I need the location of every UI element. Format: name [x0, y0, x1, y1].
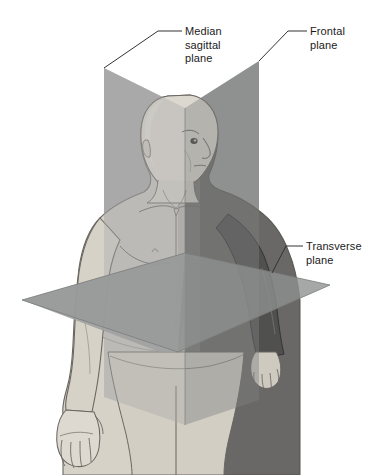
planes-diagram-svg [0, 0, 383, 475]
anatomical-planes-figure [0, 0, 383, 475]
label-frontal-plane: Frontal plane [310, 25, 345, 52]
median-sagittal-plane-overlay [104, 68, 185, 425]
frontal-plane-front-face [185, 61, 259, 425]
label-median-sagittal-plane: Median sagittal plane [185, 25, 222, 66]
label-transverse-plane: Transverse plane [306, 240, 362, 267]
